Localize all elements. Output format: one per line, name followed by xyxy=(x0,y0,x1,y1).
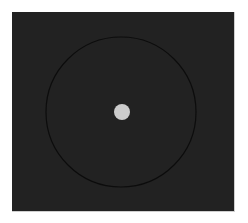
scene-svg xyxy=(0,0,248,223)
center-dot xyxy=(114,104,130,120)
